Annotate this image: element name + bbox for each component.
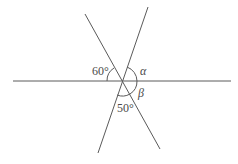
angle-beta-arc bbox=[130, 81, 137, 94]
label-beta: β bbox=[137, 86, 144, 100]
angle-50-arc bbox=[117, 94, 130, 96]
rising-line bbox=[98, 7, 148, 153]
angle-diagram: 60° α β 50° bbox=[0, 0, 238, 164]
label-alpha: α bbox=[140, 64, 147, 78]
label-50: 50° bbox=[117, 101, 134, 115]
label-60: 60° bbox=[92, 64, 109, 78]
angle-alpha-arc bbox=[127, 67, 137, 81]
